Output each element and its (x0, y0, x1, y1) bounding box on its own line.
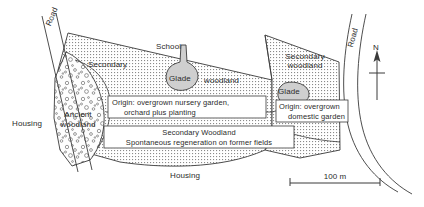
woodland-left-label: woodland (204, 76, 239, 85)
glade-right-label: Glade (278, 87, 300, 96)
glade-left-shape (166, 45, 198, 90)
secondary-left-label: Secondary (88, 60, 127, 69)
secondary-woodland-box-label: Secondary Woodland (104, 128, 294, 137)
origin-left-line1: Origin: overgrown nursery garden, (112, 98, 229, 107)
north-arrow-icon (369, 50, 385, 100)
secondary-right-line2: woodland (275, 61, 335, 70)
ancient-woodland-line2: woodland (50, 120, 106, 129)
ancient-woodland-line1: Ancient (50, 110, 106, 119)
origin-left-line2: orchard plus planting (124, 108, 196, 117)
origin-right-line1: Origin: overgrown (279, 102, 340, 111)
glade-left-label: Glade (169, 74, 191, 83)
housing-bottom-label: Housing (170, 171, 200, 180)
origin-right-line2: domestic garden (288, 112, 345, 121)
scale-bar-label: 100 m (305, 172, 365, 181)
school-label: School (156, 42, 181, 51)
housing-left-label: Housing (12, 119, 42, 128)
woodland-site-map: Road Road School Housing Housing Seconda… (0, 0, 424, 207)
regeneration-box-label: Spontaneous regeneration on former field… (104, 138, 294, 147)
secondary-right-line1: Secondary (275, 52, 335, 61)
north-label: N (373, 43, 379, 52)
